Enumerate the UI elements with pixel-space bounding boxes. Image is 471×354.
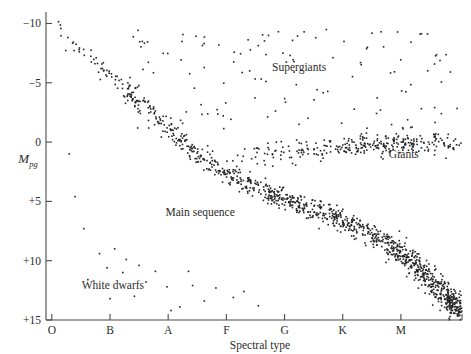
supergiant-star bbox=[182, 34, 184, 36]
giant-star bbox=[362, 139, 364, 141]
main-sequence-star bbox=[440, 299, 442, 301]
main-sequence-star bbox=[363, 227, 365, 229]
main-sequence-star bbox=[216, 171, 218, 173]
supergiant-star bbox=[233, 51, 235, 53]
main-sequence-star bbox=[460, 300, 462, 302]
main-sequence-star bbox=[222, 181, 224, 183]
main-sequence-star bbox=[459, 315, 461, 317]
main-sequence-star bbox=[249, 190, 251, 192]
main-sequence-star bbox=[264, 197, 266, 199]
main-sequence-star bbox=[225, 174, 227, 176]
giant-star bbox=[272, 165, 274, 167]
main-sequence-star bbox=[329, 216, 331, 218]
giant-star bbox=[380, 156, 382, 158]
giant-star bbox=[380, 141, 382, 143]
main-sequence-star bbox=[289, 196, 291, 198]
main-sequence-star bbox=[453, 289, 455, 291]
main-sequence-star bbox=[166, 127, 168, 129]
main-sequence-star bbox=[403, 258, 405, 260]
giant-star bbox=[383, 143, 385, 145]
main-sequence-star bbox=[252, 195, 254, 197]
main-sequence-star bbox=[164, 131, 166, 133]
main-sequence-star bbox=[118, 80, 120, 82]
main-sequence-star bbox=[189, 149, 191, 151]
main-sequence-star bbox=[260, 193, 262, 195]
main-sequence-star bbox=[267, 203, 269, 205]
main-sequence-star bbox=[318, 217, 320, 219]
main-sequence-star bbox=[408, 256, 410, 258]
main-sequence-star bbox=[237, 172, 239, 174]
main-sequence-star bbox=[409, 260, 411, 262]
main-sequence-star bbox=[364, 242, 366, 244]
supergiant-star bbox=[260, 78, 262, 80]
main-sequence-star bbox=[446, 307, 448, 309]
main-sequence-star bbox=[447, 309, 449, 311]
supergiant-star bbox=[376, 113, 378, 115]
main-sequence-star bbox=[238, 181, 240, 183]
main-sequence-star bbox=[336, 214, 338, 216]
main-sequence-star bbox=[432, 285, 434, 287]
y-tick-label-2: 0 bbox=[35, 136, 41, 148]
main-sequence-star bbox=[181, 148, 183, 150]
supergiant-star bbox=[445, 54, 447, 56]
main-sequence-star bbox=[189, 156, 191, 158]
giant-star bbox=[322, 157, 324, 159]
main-sequence-star bbox=[191, 148, 193, 150]
giant-star bbox=[434, 140, 436, 142]
main-sequence-star bbox=[148, 112, 150, 114]
main-sequence-star bbox=[457, 315, 459, 317]
main-sequence-star bbox=[166, 131, 168, 133]
giant-star bbox=[346, 152, 348, 154]
main-sequence-star bbox=[451, 305, 453, 307]
giant-star bbox=[366, 132, 368, 134]
supergiant-star bbox=[180, 120, 182, 122]
main-sequence-star bbox=[290, 199, 292, 201]
giant-star bbox=[364, 145, 366, 147]
main-sequence-star bbox=[459, 302, 461, 304]
supergiant-star bbox=[296, 84, 298, 86]
main-sequence-star bbox=[444, 307, 446, 309]
main-sequence-star bbox=[285, 201, 287, 203]
giant-star bbox=[267, 147, 269, 149]
main-sequence-star bbox=[286, 198, 288, 200]
supergiant-star bbox=[262, 34, 264, 36]
main-sequence-star bbox=[274, 196, 276, 198]
main-sequence-star bbox=[211, 166, 213, 168]
main-sequence-star bbox=[443, 288, 445, 290]
main-sequence-star bbox=[383, 236, 385, 238]
main-sequence-star bbox=[114, 84, 116, 86]
main-sequence-star bbox=[78, 49, 80, 51]
supergiant-star bbox=[367, 46, 369, 48]
main-sequence-star bbox=[147, 107, 149, 109]
main-sequence-star bbox=[274, 198, 276, 200]
giant-star bbox=[447, 147, 449, 149]
main-sequence-star bbox=[327, 224, 329, 226]
giant-star bbox=[280, 154, 282, 156]
main-sequence-star bbox=[102, 68, 104, 70]
main-sequence-star bbox=[355, 238, 357, 240]
main-sequence-star bbox=[73, 50, 75, 52]
main-sequence-star bbox=[381, 246, 383, 248]
scatter-points-layer bbox=[58, 21, 463, 321]
main-sequence-star bbox=[250, 181, 252, 183]
giant-star bbox=[416, 138, 418, 140]
main-sequence-star bbox=[94, 63, 96, 65]
main-sequence-star bbox=[429, 293, 431, 295]
main-sequence-star bbox=[183, 135, 185, 137]
main-sequence-star bbox=[431, 278, 433, 280]
supergiant-star bbox=[140, 46, 142, 48]
main-sequence-star bbox=[203, 169, 205, 171]
giant-star bbox=[339, 146, 341, 148]
main-sequence-star bbox=[426, 260, 428, 262]
supergiant-star bbox=[230, 119, 232, 121]
main-sequence-star bbox=[408, 273, 410, 275]
giant-star bbox=[387, 143, 389, 145]
main-sequence-star bbox=[423, 278, 425, 280]
main-sequence-star bbox=[131, 92, 133, 94]
main-sequence-star bbox=[334, 219, 336, 221]
main-sequence-star bbox=[371, 232, 373, 234]
main-sequence-star bbox=[297, 206, 299, 208]
giant-star bbox=[330, 146, 332, 148]
main-sequence-star bbox=[278, 207, 280, 209]
supergiant-star bbox=[250, 49, 252, 51]
